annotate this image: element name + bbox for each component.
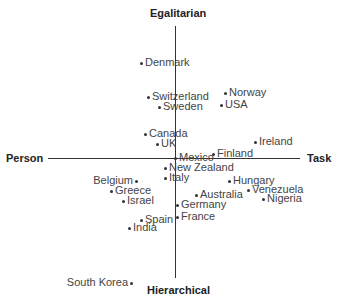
data-point: Israel bbox=[120, 194, 154, 206]
data-point: Sweden bbox=[156, 100, 203, 112]
dot-icon bbox=[147, 96, 150, 99]
data-point: Germany bbox=[174, 198, 226, 210]
dot-icon bbox=[254, 141, 257, 144]
point-label: Sweden bbox=[163, 100, 203, 112]
data-point: USA bbox=[218, 98, 248, 110]
point-label: Germany bbox=[181, 198, 226, 210]
data-point: Denmark bbox=[138, 56, 190, 68]
axis-label-bottom: Hierarchical bbox=[147, 284, 210, 296]
dot-icon bbox=[176, 216, 179, 219]
dot-icon bbox=[164, 167, 167, 170]
point-label: Denmark bbox=[145, 56, 190, 68]
data-point: India bbox=[126, 221, 157, 233]
dot-icon bbox=[212, 153, 215, 156]
point-label: South Korea bbox=[67, 276, 128, 288]
dot-icon bbox=[262, 198, 265, 201]
dot-icon bbox=[164, 177, 167, 180]
dot-icon bbox=[140, 62, 143, 65]
dot-icon bbox=[228, 180, 231, 183]
point-label: USA bbox=[225, 98, 248, 110]
point-label: Norway bbox=[229, 86, 266, 98]
data-point: France bbox=[174, 210, 215, 222]
data-point: Norway bbox=[222, 86, 266, 98]
axis-label-left: Person bbox=[6, 152, 43, 164]
data-point: Ireland bbox=[252, 135, 293, 147]
data-point: South Korea bbox=[67, 276, 135, 288]
data-point: Finland bbox=[210, 147, 253, 159]
data-point: UK bbox=[154, 137, 176, 149]
point-label: India bbox=[133, 221, 157, 233]
dot-icon bbox=[156, 143, 159, 146]
point-label: Israel bbox=[127, 194, 154, 206]
data-point: Italy bbox=[162, 171, 189, 183]
point-label: UK bbox=[161, 137, 176, 149]
dot-icon bbox=[128, 227, 131, 230]
point-label: Finland bbox=[217, 147, 253, 159]
point-label: Ireland bbox=[259, 135, 293, 147]
dot-icon bbox=[220, 104, 223, 107]
point-label: France bbox=[181, 210, 215, 222]
dot-icon bbox=[144, 133, 147, 136]
dot-icon bbox=[176, 204, 179, 207]
dot-icon bbox=[247, 189, 250, 192]
dot-icon bbox=[122, 200, 125, 203]
dot-icon bbox=[174, 157, 177, 160]
dot-icon bbox=[195, 194, 198, 197]
dot-icon bbox=[110, 190, 113, 193]
dot-icon bbox=[158, 106, 161, 109]
axis-label-top: Egalitarian bbox=[150, 7, 206, 19]
dot-icon bbox=[224, 92, 227, 95]
point-label: Nigeria bbox=[267, 192, 302, 204]
data-point: Nigeria bbox=[260, 192, 302, 204]
dot-icon bbox=[135, 180, 138, 183]
axis-label-right: Task bbox=[307, 152, 331, 164]
dot-icon bbox=[130, 282, 133, 285]
point-label: Italy bbox=[169, 171, 189, 183]
